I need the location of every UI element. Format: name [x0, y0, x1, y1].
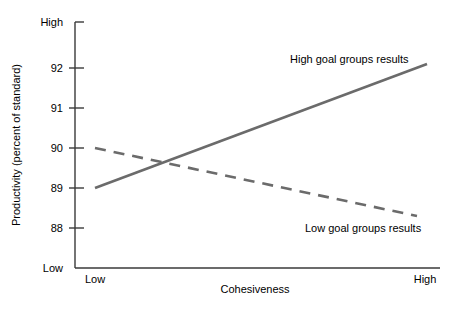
y-tick-label-89: 89 [51, 182, 63, 194]
y-axis-title: Productivity (percent of standard) [10, 64, 22, 226]
annotation-high-goal-groups: High goal groups results [290, 53, 409, 65]
annotation-low-goal-groups: Low goal groups results [305, 222, 422, 234]
y-tick-label-low: Low [43, 262, 63, 274]
y-tick-label-91: 91 [51, 102, 63, 114]
y-tick-label-90: 90 [51, 142, 63, 154]
y-tick-label-88: 88 [51, 222, 63, 234]
x-tick-label-low: Low [85, 273, 105, 285]
series-line-low-goal-groups [95, 148, 417, 216]
x-axis-title: Cohesiveness [220, 283, 290, 295]
productivity-cohesiveness-line-chart: High 92 91 90 89 88 Low Productivity (pe… [0, 0, 469, 310]
chart-container: High 92 91 90 89 88 Low Productivity (pe… [0, 0, 469, 310]
y-tick-label-high: High [40, 16, 63, 28]
series-line-high-goal-groups [95, 64, 427, 188]
x-tick-label-high: High [414, 273, 437, 285]
y-tick-label-92: 92 [51, 62, 63, 74]
